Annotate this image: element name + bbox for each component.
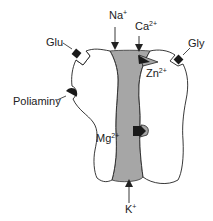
glu-label: Glu (46, 36, 63, 48)
left-subunit (72, 49, 118, 182)
nmda-receptor-diagram: Na+ Ca2+ Glu Gly Zn2+ Poliaminy Mg2+ K+ (0, 0, 213, 221)
k-label: K+ (125, 203, 136, 215)
poliaminy-label: Poliaminy (13, 95, 61, 107)
diagram-canvas: Na+ Ca2+ Glu Gly Zn2+ Poliaminy Mg2+ K+ (0, 0, 213, 221)
gly-label: Gly (188, 37, 205, 49)
glu-pointer-line (63, 43, 72, 49)
na-label: Na+ (109, 9, 127, 21)
ca-label: Ca2+ (135, 20, 157, 32)
gly-pointer-line (183, 48, 190, 55)
gly-ligand-icon (174, 55, 184, 65)
